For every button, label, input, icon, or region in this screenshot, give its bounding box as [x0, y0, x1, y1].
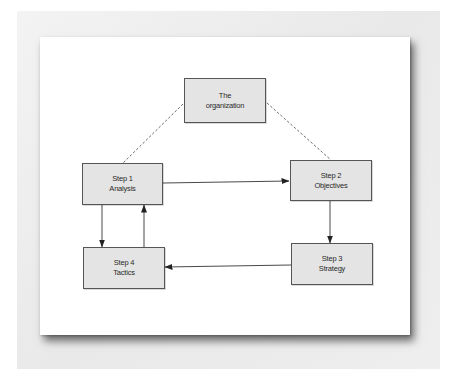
- node-label-line2: Analysis: [109, 184, 135, 194]
- node-step2-objectives: Step 2 Objectives: [290, 160, 372, 201]
- node-label-line1: Step 3: [322, 254, 342, 264]
- node-label-line2: Strategy: [319, 264, 345, 274]
- node-label-line2: Tactics: [113, 268, 135, 278]
- node-label-line1: The: [219, 91, 231, 101]
- node-label-line2: Objectives: [314, 181, 347, 191]
- node-step3-strategy: Step 3 Strategy: [291, 243, 373, 285]
- node-label-line1: Step 2: [321, 171, 341, 181]
- node-label-line2: organization: [206, 101, 244, 111]
- node-label-line1: Step 1: [112, 174, 132, 184]
- node-step4-tactics: Step 4 Tactics: [83, 247, 165, 289]
- node-label-line1: Step 4: [114, 258, 134, 268]
- node-step1-analysis: Step 1 Analysis: [82, 163, 163, 205]
- diagram-scene: The organization Step 1 Analysis Step 2 …: [0, 0, 452, 382]
- node-organization: The organization: [184, 78, 266, 123]
